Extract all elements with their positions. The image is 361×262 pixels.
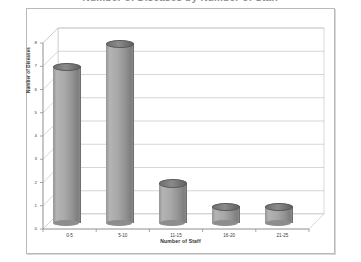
chart-frame: 0 1 2 3 4 5 6 7 8 Number of Diseases: [26, 8, 335, 254]
ytick-label-3: 3: [23, 156, 37, 161]
x-axis-title: Number of Staff: [27, 238, 334, 244]
bar-4: [265, 206, 291, 223]
ytick-label-2: 2: [23, 180, 37, 185]
chart-title: Number of Diseases by Number of Staff: [0, 0, 361, 3]
ytick-label-4: 4: [23, 133, 37, 138]
bar-0: [53, 66, 79, 223]
bar-1: [106, 43, 132, 223]
ytick-label-0: 0: [23, 226, 37, 231]
ytick-label-1: 1: [23, 203, 37, 208]
plot-area: 0 1 2 3 4 5 6 7 8 Number of Diseases: [27, 9, 334, 253]
bar-2: [159, 183, 185, 224]
y-axis-title: Number of Diseases: [26, 35, 31, 105]
ytick-label-5: 5: [23, 110, 37, 115]
bar-3-cap: [212, 203, 240, 211]
chart-title-clipped: Number of Diseases by Number of Staff: [0, 0, 361, 7]
bar-3: [212, 206, 238, 223]
bar-4-cap: [265, 203, 293, 211]
bar-2-cap: [159, 179, 187, 187]
